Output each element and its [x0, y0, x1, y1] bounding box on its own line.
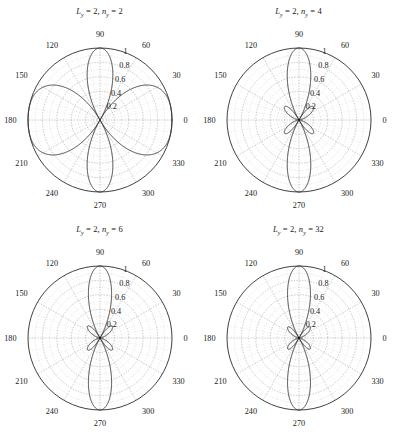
theta-tick-label: 0	[184, 334, 188, 343]
polar-plot-figure: Ly = 2, ny = 203060901201501802102402703…	[0, 0, 398, 436]
theta-tick-label: 60	[142, 259, 150, 268]
theta-tick-label: 240	[46, 189, 58, 198]
theta-tick-label: 180	[4, 334, 16, 343]
theta-tick-label: 120	[46, 41, 58, 50]
polar-panel-2: Ly = 2, ny = 403060901201501802102402703…	[199, 0, 398, 218]
theta-tick-label: 90	[295, 248, 303, 257]
grid-spoke-minor	[45, 338, 100, 384]
r-tick-label: 1	[323, 47, 327, 56]
grid-spoke-minor	[45, 120, 100, 166]
grid-spoke-minor	[299, 338, 354, 384]
r-tick-label: 0.2	[107, 102, 117, 111]
grid-spoke-minor	[228, 338, 299, 351]
grid-spoke-minor	[228, 120, 299, 133]
theta-tick-label: 300	[142, 189, 154, 198]
theta-tick-label: 300	[142, 407, 154, 416]
polar-axes: 03060901201501802102402703003300.20.40.6…	[0, 0, 199, 218]
grid-spoke-minor	[253, 65, 299, 120]
theta-tick-label: 150	[15, 71, 27, 80]
grid-spoke-minor	[253, 283, 299, 338]
theta-tick-label: 90	[295, 30, 303, 39]
theta-tick-label: 180	[203, 334, 215, 343]
theta-tick-label: 150	[214, 289, 226, 298]
r-tick-label: 0.2	[107, 320, 117, 329]
grid-spoke-minor	[54, 283, 100, 338]
theta-tick-label: 210	[214, 159, 226, 168]
grid-spoke-minor	[244, 120, 299, 166]
panel-title: Ly = 2, ny = 6	[0, 224, 199, 238]
theta-tick-label: 90	[96, 30, 104, 39]
r-tick-label: 0.2	[306, 320, 316, 329]
r-tick-label: 1	[323, 265, 327, 274]
polar-panel-4: Ly = 2, ny = 320306090120150180210240270…	[199, 218, 398, 436]
grid-spoke-minor	[244, 74, 299, 120]
grid-spoke-minor	[54, 65, 100, 120]
r-tick-label: 0.8	[119, 279, 129, 288]
theta-tick-label: 150	[214, 71, 226, 80]
grid-spoke-minor	[299, 120, 354, 166]
grid-spoke-minor	[100, 338, 155, 384]
theta-tick-label: 300	[341, 189, 353, 198]
polar-axes: 03060901201501802102402703003300.20.40.6…	[199, 218, 398, 436]
panel-title: Ly = 2, ny = 32	[199, 224, 398, 238]
grid-spoke-minor	[299, 120, 312, 191]
theta-tick-label: 0	[184, 116, 188, 125]
theta-tick-label: 30	[371, 71, 379, 80]
theta-tick-label: 270	[293, 201, 305, 210]
theta-tick-label: 300	[341, 407, 353, 416]
polar-panel-3: Ly = 2, ny = 603060901201501802102402703…	[0, 218, 199, 436]
panel-title: Ly = 2, ny = 4	[199, 6, 398, 20]
theta-tick-label: 210	[15, 159, 27, 168]
polar-axes: 03060901201501802102402703003300.20.40.6…	[0, 218, 199, 436]
theta-tick-label: 240	[245, 189, 257, 198]
theta-tick-label: 180	[4, 116, 16, 125]
grid-spoke-minor	[29, 107, 100, 120]
grid-spoke-minor	[54, 120, 100, 175]
grid-spoke-minor	[100, 120, 155, 166]
r-tick-label: 0.6	[314, 75, 324, 84]
theta-tick-label: 120	[46, 259, 58, 268]
grid-spoke-minor	[299, 74, 354, 120]
theta-tick-label: 30	[172, 71, 180, 80]
theta-tick-label: 150	[15, 289, 27, 298]
theta-tick-label: 90	[96, 248, 104, 257]
theta-tick-label: 60	[341, 259, 349, 268]
r-tick-label: 0.4	[111, 89, 121, 98]
theta-tick-label: 330	[172, 159, 184, 168]
r-tick-label: 0.4	[310, 89, 320, 98]
theta-tick-label: 180	[203, 116, 215, 125]
polar-axes: 03060901201501802102402703003300.20.40.6…	[199, 0, 398, 218]
theta-tick-label: 60	[142, 41, 150, 50]
r-tick-label: 0.8	[318, 279, 328, 288]
r-tick-label: 0.6	[115, 75, 125, 84]
grid-spoke-minor	[29, 120, 100, 133]
grid-spoke-minor	[100, 292, 155, 338]
grid-spoke-minor	[45, 292, 100, 338]
grid-spoke-minor	[244, 338, 299, 384]
grid-spoke-minor	[228, 107, 299, 120]
grid-spoke-minor	[100, 74, 155, 120]
r-tick-label: 0.8	[119, 61, 129, 70]
r-tick-label: 0.6	[115, 293, 125, 302]
theta-tick-label: 30	[371, 289, 379, 298]
theta-tick-label: 330	[371, 377, 383, 386]
theta-tick-label: 330	[172, 377, 184, 386]
grid-spoke-minor	[253, 338, 299, 393]
theta-tick-label: 0	[383, 334, 387, 343]
theta-tick-label: 330	[371, 159, 383, 168]
grid-spoke-minor	[54, 338, 100, 393]
theta-tick-label: 270	[293, 419, 305, 428]
theta-tick-label: 270	[94, 201, 106, 210]
grid-spoke-minor	[45, 74, 100, 120]
grid-spoke-minor	[244, 292, 299, 338]
grid-spoke-minor	[228, 325, 299, 338]
theta-tick-label: 120	[245, 259, 257, 268]
theta-tick-label: 240	[46, 407, 58, 416]
panel-title: Ly = 2, ny = 2	[0, 6, 199, 20]
grid-spoke-minor	[253, 120, 299, 175]
r-tick-label: 0.8	[318, 61, 328, 70]
r-tick-label: 1	[124, 265, 128, 274]
theta-tick-label: 0	[383, 116, 387, 125]
r-tick-label: 0.4	[310, 307, 320, 316]
grid-spoke-minor	[299, 292, 354, 338]
